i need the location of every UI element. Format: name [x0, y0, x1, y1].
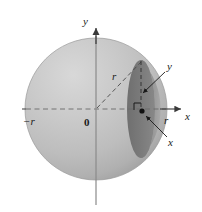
y-axis-label: y: [82, 15, 88, 27]
x-axis-label: x: [184, 110, 190, 122]
sphere-cross-section-figure: y x 0 −r r r y x: [0, 0, 202, 212]
sample-point-dot: [139, 108, 144, 113]
origin-label: 0: [84, 116, 90, 128]
radius-diagonal-label: r: [112, 70, 117, 82]
callout-label-y: y: [166, 60, 172, 72]
negative-radius-label: −r: [23, 115, 35, 127]
figure-canvas: y x 0 −r r r y x: [0, 0, 202, 212]
positive-radius-label: r: [164, 114, 169, 126]
callout-label-x: x: [167, 136, 173, 148]
